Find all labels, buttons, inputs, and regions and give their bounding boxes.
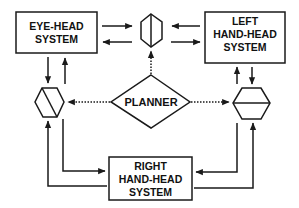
- eye-head-label-line-2: SYSTEM: [35, 33, 78, 45]
- left-hand-head-label-line-1: LEFT: [232, 15, 259, 27]
- right-hexagon-icon: [233, 88, 270, 119]
- right-hand-head-label-line-2: HAND-HEAD: [119, 173, 183, 185]
- edge-right-hand-to-hex-right: [194, 123, 253, 188]
- planner-label: PLANNER: [124, 96, 177, 108]
- edge-right-hand-to-hex-left: [48, 121, 107, 186]
- edge-hex-right-to-right-hand: [196, 123, 237, 172]
- left-hand-head-label-line-2: HAND-HEAD: [213, 28, 277, 40]
- right-hand-head-label-line-1: RIGHT: [134, 160, 167, 172]
- top-hexagon-icon: [141, 14, 162, 47]
- right-hand-head-label-line-3: SYSTEM: [129, 186, 172, 198]
- eye-head-label-line-1: EYE-HEAD: [29, 20, 84, 32]
- control-architecture-diagram: EYE-HEAD SYSTEM LEFT HAND-HEAD SYSTEM RI…: [0, 0, 299, 208]
- edge-hex-left-to-right-hand: [63, 119, 105, 171]
- left-hexagon-icon: [35, 88, 64, 117]
- left-hand-head-label-line-3: SYSTEM: [223, 41, 266, 53]
